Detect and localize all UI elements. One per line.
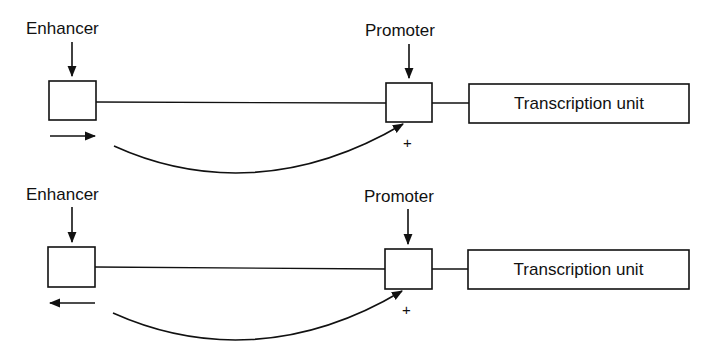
promoter-box [385, 249, 432, 289]
dna-line [95, 267, 385, 269]
activation-curved-arrow-icon [113, 291, 402, 340]
enhancer-label: Enhancer [26, 186, 99, 203]
dna-line [96, 102, 386, 103]
transcription-unit-label: Transcription unit [469, 95, 689, 112]
enhancer-box [49, 81, 96, 120]
promoter-box [386, 83, 432, 122]
activation-curved-arrow-icon [114, 124, 403, 173]
promoter-label: Promoter [365, 22, 435, 39]
enhancer-label: Enhancer [26, 20, 99, 37]
promoter-label: Promoter [364, 188, 434, 205]
enhancer-box [48, 247, 95, 287]
activation-plus-sign: + [402, 302, 411, 317]
diagram-canvas [0, 0, 711, 363]
transcription-unit-label: Transcription unit [468, 261, 689, 278]
activation-plus-sign: + [403, 135, 412, 150]
